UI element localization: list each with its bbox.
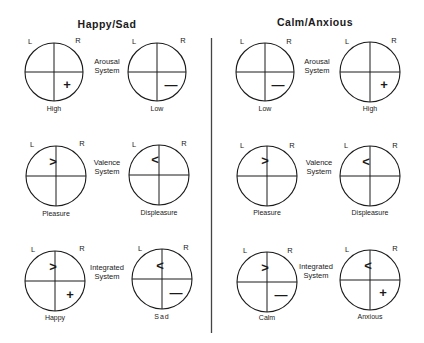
quadrant-symbol-upper: < <box>364 258 372 273</box>
quadrant-symbol-upper: > <box>261 153 269 168</box>
system-label: System <box>303 271 328 280</box>
system-label: Integrated <box>299 262 333 271</box>
row-integrated: Integrated System L R > — Calm L R < + <box>237 244 400 321</box>
left-hemisphere-label: L <box>30 140 34 149</box>
system-label: Arousal <box>94 57 120 66</box>
left-hemisphere-label: L <box>28 37 32 46</box>
right-hemisphere-label: R <box>287 246 293 255</box>
circle-caption: Low <box>259 105 273 112</box>
system-label: Arousal <box>304 57 330 66</box>
circle-caption: Happy <box>45 314 66 322</box>
row-valence: Valence System L R > Pleasure L R < <box>237 141 400 217</box>
right-hemisphere-label: R <box>180 36 186 45</box>
panel-calm-anxious: Calm/Anxious Arousal System L R — Low L … <box>236 16 400 321</box>
left-hemisphere-label: L <box>240 141 244 150</box>
right-hemisphere-label: R <box>75 36 81 45</box>
quadrant-symbol-lower: + <box>380 77 388 92</box>
left-hemisphere-label: L <box>345 37 349 46</box>
left-hemisphere-label: L <box>138 244 142 253</box>
left-hemisphere-label: L <box>240 37 244 46</box>
circle-caption: Displeasure <box>352 209 389 217</box>
circle-caption: Pleasure <box>42 210 70 217</box>
left-hemisphere-label: L <box>31 245 35 254</box>
panel-title: Happy/Sad <box>78 18 137 30</box>
circle-caption: High <box>363 105 378 113</box>
system-label: System <box>304 66 329 75</box>
hemisphere-circle-left: L R > — Calm <box>237 246 297 321</box>
row-integrated: Integrated System L R > + Happy L R < — <box>25 243 192 322</box>
hemisphere-diagram: Happy/Sad Arousal System L R + High L R <box>0 0 424 343</box>
left-hemisphere-label: L <box>132 37 136 46</box>
hemisphere-circle-right: L R < Displeasure <box>129 139 189 217</box>
quadrant-symbol-lower: — <box>165 77 178 92</box>
quadrant-symbol-lower: — <box>275 287 288 302</box>
circle-caption: Calm <box>259 314 276 321</box>
quadrant-symbol-upper: < <box>151 152 159 167</box>
system-label: System <box>94 66 119 75</box>
system-label: Valence <box>94 158 121 167</box>
left-hemisphere-label: L <box>132 140 136 149</box>
panel-happy-sad: Happy/Sad Arousal System L R + High L R <box>25 18 192 322</box>
hemisphere-circle-left: L R > Pleasure <box>237 141 297 216</box>
right-hemisphere-label: R <box>391 36 397 45</box>
right-hemisphere-label: R <box>79 244 85 253</box>
quadrant-symbol-lower: + <box>66 287 74 302</box>
right-hemisphere-label: R <box>286 37 292 46</box>
right-hemisphere-label: R <box>392 244 398 253</box>
hemisphere-circle-right: L R — Low <box>128 36 186 112</box>
system-label: System <box>306 167 331 176</box>
left-hemisphere-label: L <box>345 245 349 254</box>
quadrant-symbol-upper: > <box>261 260 269 275</box>
quadrant-symbol-lower: + <box>379 285 387 300</box>
hemisphere-circle-left: L R — Low <box>236 37 294 112</box>
quadrant-symbol-lower: — <box>272 77 285 92</box>
circle-caption: Displeasure <box>141 209 178 217</box>
system-label: System <box>94 167 119 176</box>
right-hemisphere-label: R <box>79 139 85 148</box>
circle-caption: Anxious <box>358 313 383 320</box>
hemisphere-circle-left: L R + High <box>25 36 83 113</box>
left-hemisphere-label: L <box>243 246 247 255</box>
system-label: Valence <box>306 158 333 167</box>
right-hemisphere-label: R <box>183 243 189 252</box>
hemisphere-circle-right: L R < — Sad <box>132 243 192 320</box>
quadrant-symbol-lower: — <box>170 285 183 300</box>
panel-title: Calm/Anxious <box>277 16 353 28</box>
right-hemisphere-label: R <box>289 141 295 150</box>
circle-caption: Low <box>151 105 165 112</box>
quadrant-symbol-upper: > <box>49 259 57 274</box>
hemisphere-circle-left: L R > Pleasure <box>26 139 86 217</box>
quadrant-symbol-lower: + <box>63 77 71 92</box>
row-arousal: Arousal System L R — Low L R + High <box>236 36 400 113</box>
row-valence: Valence System L R > Pleasure L R < <box>26 139 189 217</box>
hemisphere-circle-right: L R + High <box>340 36 400 113</box>
right-hemisphere-label: R <box>392 141 398 150</box>
quadrant-symbol-upper: < <box>156 258 164 273</box>
row-arousal: Arousal System L R + High L R — Low <box>25 36 186 113</box>
right-hemisphere-label: R <box>181 139 187 148</box>
system-label: Integrated <box>90 263 124 272</box>
circle-caption: High <box>47 105 62 113</box>
system-label: System <box>94 272 119 281</box>
hemisphere-circle-right: L R < + Anxious <box>340 244 400 320</box>
quadrant-symbol-upper: > <box>49 154 57 169</box>
hemisphere-circle-right: L R < Displeasure <box>340 141 400 217</box>
left-hemisphere-label: L <box>344 141 348 150</box>
hemisphere-circle-left: L R > + Happy <box>25 244 85 322</box>
circle-caption: Sad <box>154 313 169 320</box>
quadrant-symbol-upper: < <box>362 154 370 169</box>
circle-caption: Pleasure <box>253 209 281 216</box>
